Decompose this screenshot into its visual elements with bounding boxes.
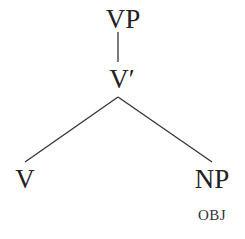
tree-edges — [0, 0, 245, 239]
edge-vbar-to-np — [118, 97, 212, 162]
node-np-feature-obj: OBJ — [198, 208, 226, 223]
node-np: NP — [195, 166, 230, 193]
syntax-tree-diagram: VP V′ V NP OBJ — [0, 0, 245, 239]
node-v: V — [15, 166, 35, 193]
node-v-bar: V′ — [109, 66, 134, 93]
node-vp: VP — [106, 6, 141, 33]
edge-vbar-to-v — [25, 97, 118, 162]
